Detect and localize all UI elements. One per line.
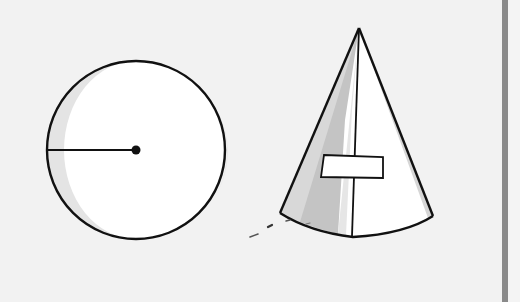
shadow-dash xyxy=(286,220,290,221)
frame-gutter xyxy=(508,0,520,302)
center-point xyxy=(132,146,141,155)
cone-shape xyxy=(250,28,433,237)
shadow-dash xyxy=(268,225,272,227)
circle-shape xyxy=(47,61,228,239)
geometry-illustration xyxy=(0,0,520,302)
figure-canvas xyxy=(0,0,520,302)
shadow-dash xyxy=(250,234,258,237)
cone-tag-rectangle xyxy=(321,155,383,178)
